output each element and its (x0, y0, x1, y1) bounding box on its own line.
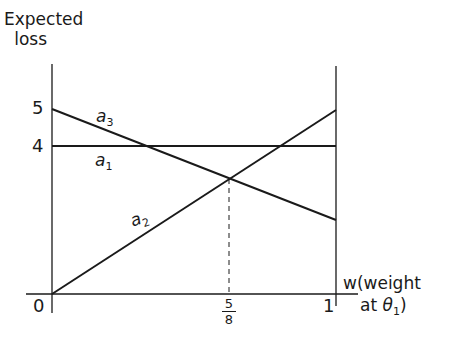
x-tick-5-8-denominator: 8 (225, 312, 233, 327)
series-a1-label: a1 (95, 152, 112, 172)
y-axis-label: Expected loss (4, 9, 83, 49)
x-tick-5-8-numerator: 5 (225, 296, 233, 311)
x-tick-5-8: 5 8 (222, 297, 236, 326)
series-a2-line (52, 110, 336, 294)
x-tick-0: 0 (33, 297, 44, 315)
y-tick-4: 4 (32, 137, 43, 155)
x-axis-label-line2: at θ1) (360, 294, 421, 323)
x-tick-1: 1 (323, 297, 334, 315)
y-tick-5: 5 (32, 99, 43, 117)
y-axis-label-line1: Expected (4, 9, 83, 29)
x-axis-label: w(weight at θ1) (343, 272, 421, 323)
theta-symbol: θ (383, 295, 393, 315)
y-axis-label-line2: loss (0, 29, 83, 49)
series-a3-label: a3 (96, 108, 113, 128)
x-axis-label-line1: w(weight (343, 272, 421, 294)
